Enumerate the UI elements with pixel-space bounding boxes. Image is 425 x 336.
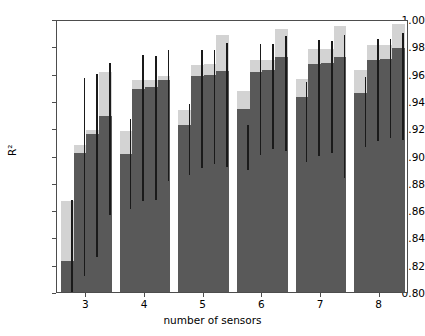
error-bar bbox=[331, 41, 333, 153]
error-bar bbox=[365, 77, 367, 147]
x-tick-mark bbox=[203, 293, 204, 297]
error-bar bbox=[226, 43, 228, 167]
x-tick-label: 4 bbox=[141, 298, 148, 310]
error-bar bbox=[130, 119, 132, 209]
error-bar bbox=[96, 74, 98, 257]
error-bar bbox=[402, 33, 404, 139]
error-bar bbox=[168, 50, 170, 181]
x-tick-mark bbox=[379, 293, 380, 297]
error-bar bbox=[201, 50, 203, 169]
error-bar bbox=[306, 82, 308, 161]
x-tick-label: 7 bbox=[317, 298, 324, 310]
error-bar bbox=[142, 55, 144, 201]
x-tick-mark bbox=[144, 293, 145, 297]
error-bar bbox=[285, 36, 287, 151]
error-bar bbox=[272, 44, 274, 149]
error-bar bbox=[84, 78, 86, 276]
error-bar bbox=[189, 104, 191, 175]
x-tick-mark bbox=[261, 293, 262, 297]
x-tick-mark bbox=[320, 293, 321, 297]
y-axis-label: R² bbox=[6, 144, 18, 156]
x-tick-label: 3 bbox=[82, 298, 89, 310]
error-bar bbox=[247, 125, 249, 170]
y-tick-mark bbox=[52, 293, 56, 294]
chart-figure: R² 0.800.820.840.860.880.900.920.940.960… bbox=[0, 0, 425, 336]
error-bar bbox=[390, 39, 392, 139]
error-bar bbox=[377, 39, 379, 141]
x-axis-label: number of sensors bbox=[0, 314, 425, 326]
error-bar bbox=[109, 63, 111, 215]
x-tick-label: 6 bbox=[258, 298, 265, 310]
error-bar bbox=[71, 200, 73, 293]
error-bar bbox=[318, 40, 320, 156]
x-tick-label: 5 bbox=[199, 298, 206, 310]
plot-area bbox=[56, 20, 408, 293]
error-bar bbox=[214, 50, 216, 165]
x-tick-label: 8 bbox=[375, 298, 382, 310]
x-tick-mark bbox=[85, 293, 86, 297]
error-bars-layer bbox=[57, 21, 407, 292]
error-bar bbox=[260, 44, 262, 155]
error-bar bbox=[155, 56, 157, 199]
error-bar bbox=[344, 35, 346, 178]
